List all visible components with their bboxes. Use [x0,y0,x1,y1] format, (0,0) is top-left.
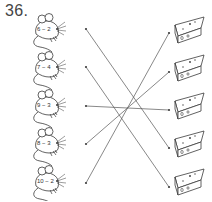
connection-line [86,33,169,183]
mouse-icon: 10 − 2 [34,166,66,202]
cheese-icon [175,17,204,43]
mouse-expression: 8 − 3 [37,140,51,146]
matching-canvas: 6 − 27 − 49 − 38 − 310 − 2 [0,0,212,201]
mouse-expression: 7 − 4 [37,64,51,70]
mouse-icon: 9 − 3 [34,90,66,129]
mouse-expression: 6 − 2 [37,26,51,32]
mouse-icon: 7 − 4 [34,52,66,91]
mouse-icon: 6 − 2 [34,14,66,53]
cheese-column [168,17,204,195]
mouse-expression: 10 − 2 [37,178,55,184]
connection-line [86,67,169,187]
cheese-icon [175,55,204,81]
mice-column: 6 − 27 − 49 − 38 − 310 − 2 [34,14,87,202]
connection-lines [86,29,169,187]
mouse-expression: 9 − 3 [37,102,51,108]
cheese-icon [175,169,204,195]
cheese-icon [175,131,204,157]
connection-line [86,29,169,148]
mouse-icon: 8 − 3 [34,128,66,167]
cheese-icon [175,93,204,119]
